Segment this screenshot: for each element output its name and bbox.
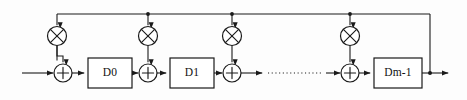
tap-dot-mul2: [230, 12, 234, 16]
adder-add3[interactable]: [341, 64, 359, 82]
delay-block-label: Dm-1: [384, 66, 412, 78]
multiplier-mul1[interactable]: [139, 27, 158, 46]
tap-dot-mul1: [146, 12, 150, 16]
delay-block-dm1[interactable]: Dm-1: [374, 58, 422, 88]
multiplier-mul0[interactable]: [48, 27, 67, 46]
multiplier-input-drops: [57, 14, 350, 25]
multiplier-mul2[interactable]: [223, 27, 242, 46]
adder-add1[interactable]: [139, 64, 157, 82]
delay-block-label: D0: [103, 66, 118, 78]
mul0-to-add0-path: [57, 46, 63, 63]
delay-block-d1[interactable]: D1: [170, 58, 214, 88]
adder-add2[interactable]: [223, 64, 241, 82]
fir-filter-diagram: D0 D1 Dm-1: [0, 0, 467, 100]
diagram-canvas: D0 D1 Dm-1: [0, 0, 467, 100]
multiplier-mul3[interactable]: [341, 27, 360, 46]
delay-block-label: D1: [185, 66, 200, 78]
adder-add0[interactable]: [54, 64, 72, 82]
tap-dot-mul3: [348, 12, 352, 16]
delay-block-d0[interactable]: D0: [88, 58, 132, 88]
